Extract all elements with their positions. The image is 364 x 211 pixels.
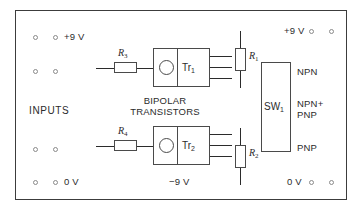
sw1-designator: SW1 (264, 101, 284, 113)
circuit-board-diagram: +9 V 0 V +9 V 0 V −9 V INPUTS BIPOLAR TR… (0, 0, 364, 211)
switch-1[interactable]: SW1 (0, 0, 364, 211)
